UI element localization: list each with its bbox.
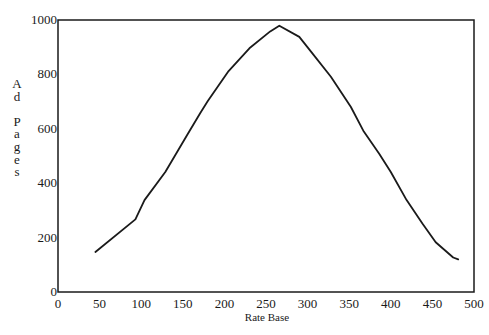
x-tick-label: 500 (464, 296, 484, 311)
y-axis-label: Ad Pages (10, 78, 24, 179)
x-tick-label: 250 (256, 296, 276, 311)
x-tick-label: 50 (93, 296, 106, 311)
y-tick-label: 800 (38, 66, 58, 81)
data-line (95, 26, 458, 260)
x-tick-label: 450 (423, 296, 443, 311)
x-tick-label: 150 (173, 296, 193, 311)
y-tick-label: 200 (38, 230, 58, 245)
x-tick-label: 300 (298, 296, 318, 311)
y-tick-label: 1000 (31, 12, 57, 27)
y-tick-label: 600 (38, 121, 58, 136)
plot-frame (58, 20, 474, 292)
x-axis-ticks: 050100150200250300350400450500 (55, 296, 484, 311)
y-axis-label-letter: s (10, 166, 24, 179)
x-tick-label: 200 (215, 296, 235, 311)
x-tick-label: 350 (339, 296, 359, 311)
y-axis-ticks: 02004006008001000 (31, 12, 57, 299)
x-axis-label: Rate Base (245, 311, 289, 323)
x-tick-label: 0 (55, 296, 62, 311)
y-tick-label: 400 (38, 175, 58, 190)
line-chart: 02004006008001000 0501001502002503003504… (0, 0, 489, 335)
x-tick-label: 400 (381, 296, 401, 311)
x-tick-label: 100 (131, 296, 151, 311)
